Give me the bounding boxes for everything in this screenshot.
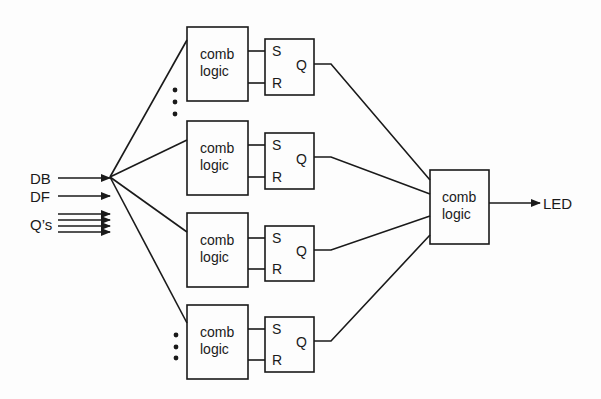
sr-4-r: R <box>272 353 282 367</box>
comb-block-4-label: comblogic <box>200 324 234 358</box>
comb-block-3-label: comblogic <box>200 232 234 266</box>
ellipsis-dot <box>174 345 179 350</box>
sr-2-q: Q <box>296 152 307 166</box>
comb-block-1-label: comblogic <box>200 46 234 80</box>
sr-2-s: S <box>272 138 281 152</box>
output-comb-block-label: comblogic <box>442 189 476 223</box>
sr-3-q: Q <box>296 244 307 258</box>
ellipsis-dot <box>173 100 178 105</box>
sr-4-q: Q <box>296 335 307 349</box>
fanout-wire-3 <box>110 177 187 232</box>
ellipsis-dot <box>174 333 179 338</box>
q-wire-4 <box>314 235 430 341</box>
sr-4-s: S <box>272 322 281 336</box>
sr-3-r: R <box>272 262 282 276</box>
fanout-wire-4 <box>110 177 187 323</box>
ellipsis-dot <box>173 88 178 93</box>
input-label-db: DB <box>30 171 51 186</box>
sr-2-r: R <box>272 170 282 184</box>
output-label-led: LED <box>543 196 572 211</box>
input-label-qs: Q’s <box>30 217 52 232</box>
sr-1-r: R <box>272 76 282 90</box>
comb-block-2-label: comblogic <box>200 140 234 174</box>
ellipsis-dot <box>174 356 179 361</box>
ellipsis-dot <box>173 112 178 117</box>
fanout-wire-2 <box>110 140 187 177</box>
q-wire-2 <box>314 157 430 194</box>
sr-1-q: Q <box>296 58 307 72</box>
sr-3-s: S <box>272 231 281 245</box>
fanout-wire-1 <box>110 40 187 177</box>
input-label-df: DF <box>30 189 50 204</box>
logic-diagram: DB DF Q’s comblogic comblogic comblogic … <box>0 0 601 399</box>
sr-1-s: S <box>272 44 281 58</box>
q-wire-1 <box>314 64 430 180</box>
q-wire-3 <box>314 216 430 250</box>
